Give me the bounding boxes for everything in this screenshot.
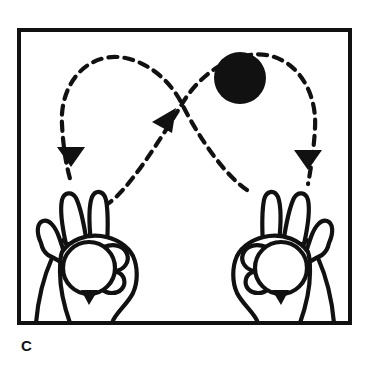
juggling-diagram: Juggling pattern diagram – two hands, th… xyxy=(0,0,370,379)
panel-label: C xyxy=(21,338,32,353)
ball-in-right-hand xyxy=(255,242,307,294)
ball-in-air xyxy=(214,52,266,104)
figure-panel: Juggling pattern diagram – two hands, th… xyxy=(0,0,370,379)
ball-in-left-hand xyxy=(63,242,115,294)
